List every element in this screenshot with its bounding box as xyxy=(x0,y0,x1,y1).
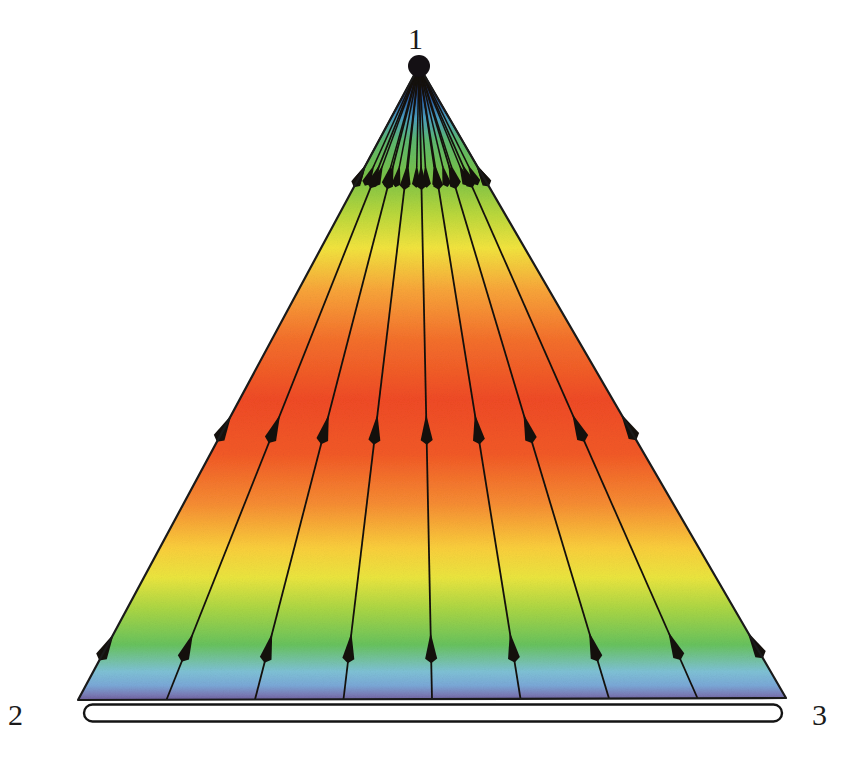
triangle-flow-diagram xyxy=(0,0,849,767)
figure-canvas: 1 2 3 xyxy=(0,0,849,767)
triangle-fill-group xyxy=(0,0,849,767)
vertex-label-2: 2 xyxy=(8,700,23,730)
vertex-label-3: 3 xyxy=(812,700,827,730)
base-bar-capsule xyxy=(84,705,782,722)
rainbow-fill xyxy=(0,0,849,767)
apex-vertex-dot xyxy=(408,55,430,77)
vertex-label-1: 1 xyxy=(408,24,423,54)
base-bar xyxy=(84,705,782,722)
